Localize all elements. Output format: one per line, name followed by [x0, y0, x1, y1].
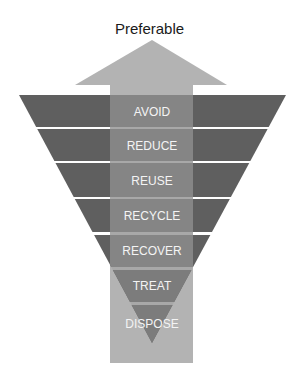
- label-recover: RECOVER: [122, 244, 182, 258]
- label-recycle: RECYCLE: [124, 209, 181, 223]
- label-reduce: REDUCE: [127, 139, 178, 153]
- waste-hierarchy-diagram: AVOID REDUCE REUSE RECYCLE RECOVER TREAT…: [0, 0, 299, 378]
- label-avoid: AVOID: [134, 105, 171, 119]
- label-reuse: REUSE: [131, 174, 172, 188]
- label-dispose: DISPOSE: [125, 317, 178, 331]
- label-treat: TREAT: [133, 279, 172, 293]
- arrow-head: [75, 40, 227, 85]
